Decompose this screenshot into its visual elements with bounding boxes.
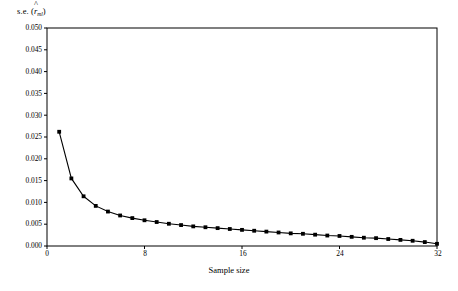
data-point-marker (325, 234, 329, 238)
data-point-marker (94, 204, 98, 208)
data-point-marker (130, 216, 134, 220)
data-point-marker (313, 233, 317, 237)
data-point-marker (57, 130, 61, 134)
data-point-marker (411, 239, 415, 243)
data-point-marker (338, 234, 342, 238)
data-point-marker (301, 232, 305, 236)
data-point-marker (228, 227, 232, 231)
data-point-marker (423, 240, 427, 244)
data-point-marker (252, 229, 256, 233)
data-point-marker (191, 224, 195, 228)
data-point-marker (82, 194, 86, 198)
data-point-marker (277, 231, 281, 235)
data-point-marker (204, 225, 208, 229)
data-point-marker (155, 220, 159, 224)
data-point-marker (399, 238, 403, 242)
plot-area (0, 0, 458, 291)
data-point-marker (69, 177, 73, 181)
data-point-marker (143, 218, 147, 222)
data-point-marker (289, 231, 293, 235)
plot-frame (47, 28, 437, 246)
data-point-marker (179, 223, 183, 227)
data-point-marker (118, 214, 122, 218)
data-point-marker (167, 222, 171, 226)
data-point-marker (216, 226, 220, 230)
chart-figure: s.e. (^rml) 0.050 0.045 0.040 0.035 0.03… (0, 0, 458, 291)
data-point-marker (435, 242, 439, 246)
data-point-marker (374, 236, 378, 240)
data-point-marker (350, 235, 354, 239)
data-point-marker (362, 236, 366, 240)
data-point-marker (240, 228, 244, 232)
data-point-marker (106, 210, 110, 214)
data-point-marker (386, 237, 390, 241)
data-point-marker (264, 230, 268, 234)
